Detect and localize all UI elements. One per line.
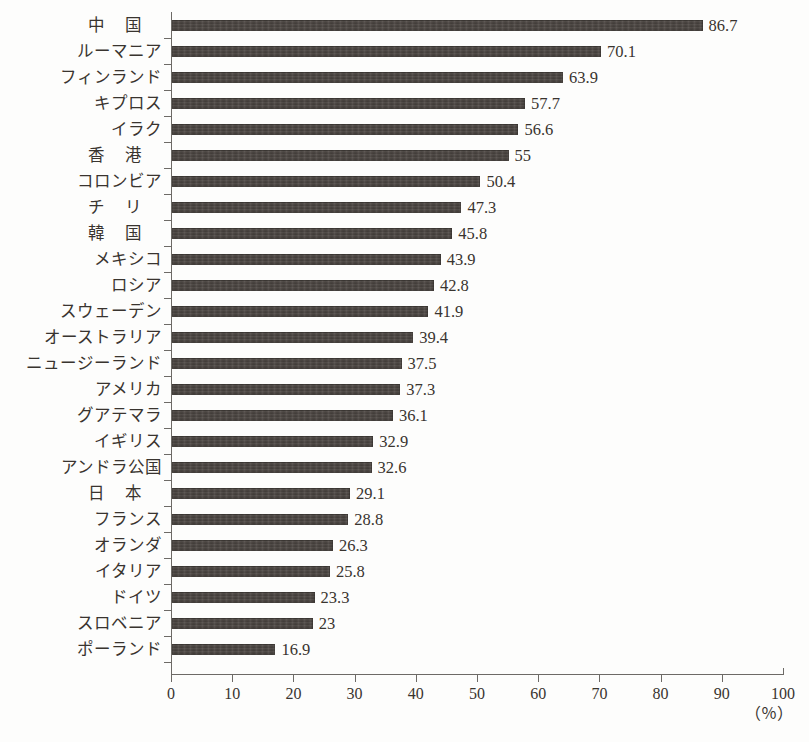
- bar: [172, 124, 518, 135]
- value-label: 86.7: [709, 13, 738, 39]
- category-label: チリ: [0, 195, 171, 221]
- x-axis-tick: [477, 675, 478, 682]
- x-axis-tick: [538, 675, 539, 682]
- category-label: ロシア: [0, 273, 171, 299]
- bar: [172, 618, 313, 629]
- category-label: コロンビア: [0, 169, 171, 195]
- bar: [172, 384, 400, 395]
- bar: [172, 98, 525, 109]
- value-label: 32.9: [379, 429, 408, 455]
- x-axis-tick-label: 40: [396, 684, 436, 704]
- value-label: 23.3: [321, 585, 350, 611]
- x-axis-tick: [722, 675, 723, 682]
- x-axis-tick-label: 10: [212, 684, 252, 704]
- bar: [172, 228, 452, 239]
- category-label: イラク: [0, 117, 171, 143]
- value-label: 25.8: [336, 559, 365, 585]
- value-label: 37.3: [406, 377, 435, 403]
- bar: [172, 514, 348, 525]
- value-label: 28.8: [354, 507, 383, 533]
- value-label: 23: [319, 611, 336, 637]
- x-axis-tick: [783, 668, 784, 675]
- bar: [172, 566, 330, 577]
- category-label: キプロス: [0, 91, 171, 117]
- category-label: スロベニア: [0, 611, 171, 637]
- category-label: アンドラ公国: [0, 455, 171, 481]
- x-axis-tick-label: 70: [579, 684, 619, 704]
- x-axis-tick-label: 80: [641, 684, 681, 704]
- category-label: ニュージーランド: [0, 351, 171, 377]
- category-label: スウェーデン: [0, 299, 171, 325]
- bar: [172, 254, 441, 265]
- x-axis-tick: [661, 675, 662, 682]
- category-label: アメリカ: [0, 377, 171, 403]
- category-label: オランダ: [0, 533, 171, 559]
- value-label: 39.4: [419, 325, 448, 351]
- category-label: メキシコ: [0, 247, 171, 273]
- bar: [172, 202, 461, 213]
- category-label: フランス: [0, 507, 171, 533]
- bar: [172, 540, 333, 551]
- value-label: 29.1: [356, 481, 385, 507]
- x-axis-tick: [355, 675, 356, 682]
- bar-chart: 中国86.7ルーマニア70.1フィンランド63.9キプロス57.7イラク56.6…: [0, 0, 809, 742]
- value-label: 37.5: [408, 351, 437, 377]
- value-label: 42.8: [440, 273, 469, 299]
- bar: [172, 488, 350, 499]
- category-label: 香港: [0, 143, 171, 169]
- x-axis-tick-label: 50: [457, 684, 497, 704]
- category-label: イタリア: [0, 559, 171, 585]
- x-axis-tick-label: 30: [335, 684, 375, 704]
- category-label: 韓国: [0, 221, 171, 247]
- category-label: ルーマニア: [0, 39, 171, 65]
- x-axis-tick-label: 20: [273, 684, 313, 704]
- x-axis-tick: [171, 675, 172, 682]
- x-axis-tick: [416, 675, 417, 682]
- bar: [172, 306, 428, 317]
- category-label: フィンランド: [0, 65, 171, 91]
- value-label: 55: [515, 143, 532, 169]
- value-label: 56.6: [524, 117, 553, 143]
- value-label: 43.9: [447, 247, 476, 273]
- bar: [172, 462, 372, 473]
- bar: [172, 72, 563, 83]
- x-axis-tick: [232, 675, 233, 682]
- value-label: 36.1: [399, 403, 428, 429]
- plot-area: 中国86.7ルーマニア70.1フィンランド63.9キプロス57.7イラク56.6…: [171, 12, 783, 674]
- bar: [172, 332, 413, 343]
- x-axis-tick-label: 0: [151, 684, 191, 704]
- category-label: 中国: [0, 13, 171, 39]
- x-axis-unit-label: （％）: [745, 700, 793, 724]
- bar: [172, 176, 480, 187]
- value-label: 70.1: [607, 39, 636, 65]
- bar: [172, 20, 703, 31]
- category-label: オーストラリア: [0, 325, 171, 351]
- category-label: ポーランド: [0, 637, 171, 663]
- value-label: 32.6: [378, 455, 407, 481]
- category-label: グアテマラ: [0, 403, 171, 429]
- bar: [172, 150, 509, 161]
- value-label: 57.7: [531, 91, 560, 117]
- bar: [172, 280, 434, 291]
- bar: [172, 592, 315, 603]
- value-label: 26.3: [339, 533, 368, 559]
- bar: [172, 644, 275, 655]
- category-label: 日本: [0, 481, 171, 507]
- category-label: ドイツ: [0, 585, 171, 611]
- bar: [172, 436, 373, 447]
- title-remnant: [278, 0, 608, 8]
- value-label: 16.9: [281, 637, 310, 663]
- category-label: イギリス: [0, 429, 171, 455]
- bar: [172, 410, 393, 421]
- bar: [172, 358, 402, 369]
- bar: [172, 46, 601, 57]
- value-label: 50.4: [486, 169, 515, 195]
- value-label: 63.9: [569, 65, 598, 91]
- value-label: 41.9: [434, 299, 463, 325]
- x-axis-tick-label: 90: [702, 684, 742, 704]
- value-label: 45.8: [458, 221, 487, 247]
- x-axis-tick: [293, 675, 294, 682]
- value-label: 47.3: [467, 195, 496, 221]
- x-axis-tick: [599, 675, 600, 682]
- x-axis-tick-label: 60: [518, 684, 558, 704]
